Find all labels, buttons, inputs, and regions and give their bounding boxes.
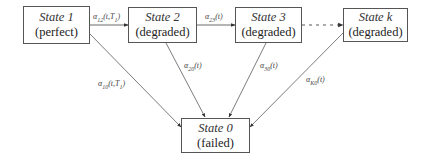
label-alpha-20: α20(t) <box>184 61 202 72</box>
state-3-node: State 3 (degraded) <box>235 7 302 43</box>
state-2-node: State 2 (degraded) <box>128 7 197 43</box>
state-3-condition: (degraded) <box>241 25 295 40</box>
state-k-condition: (degraded) <box>348 25 402 40</box>
state-2-condition: (degraded) <box>135 25 189 40</box>
label-alpha-30: α30(t) <box>260 61 278 72</box>
state-k-node: State k (degraded) <box>343 8 408 42</box>
label-alpha-23: α23(t) <box>205 12 223 23</box>
label-alpha-k0: αK0(t) <box>306 75 325 86</box>
state-3-name: State 3 <box>251 10 285 25</box>
edge-s2-s0 <box>166 43 205 117</box>
state-k-name: State k <box>359 10 393 25</box>
state-0-node: State 0 (failed) <box>181 118 250 153</box>
state-0-condition: (failed) <box>197 136 234 151</box>
state-2-name: State 2 <box>145 10 179 25</box>
label-alpha-12: α12(t,T1) <box>93 12 120 23</box>
state-0-name: State 0 <box>198 121 232 136</box>
state-1-name: State 1 <box>39 10 73 25</box>
state-1-condition: (perfect) <box>35 25 78 40</box>
edge-s3-s0 <box>229 43 266 117</box>
state-1-node: State 1 (perfect) <box>23 6 90 44</box>
label-alpha-10: α10(t,T1) <box>98 79 125 90</box>
